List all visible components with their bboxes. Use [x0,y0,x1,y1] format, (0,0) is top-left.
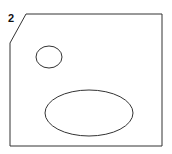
outline-shape [10,14,162,146]
diagram-canvas [0,0,172,154]
small-ellipse [36,46,62,68]
large-ellipse [45,90,133,136]
